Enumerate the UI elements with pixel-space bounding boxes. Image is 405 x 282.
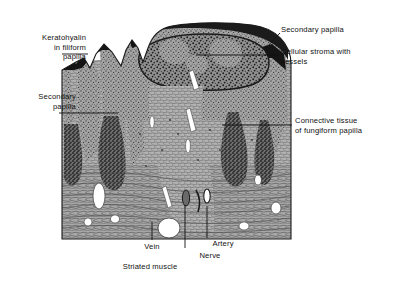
artery-lumen [204,189,210,203]
label-vein: Vein [133,242,171,252]
vessel-lumen-6 [255,175,262,185]
label-striated-muscle: Striated muscle [104,262,196,272]
vein-lumen [158,218,180,238]
nerve-bundle [182,190,189,206]
epithelial-peg-far-left [64,124,82,186]
vessel-lumen-5 [271,202,281,214]
tissue-section [55,19,300,245]
vessel-lumen-2 [84,218,92,226]
vessel-slit-5 [150,116,154,128]
vessel-lumen-4 [239,222,249,230]
label-secondary-papilla-left: Secondary papilla [4,92,76,111]
histology-figure: Keratohyalin in filiform papilla Seconda… [0,0,405,282]
label-cellular-stroma-with-vessels: Cellular stroma with vessels [281,47,403,66]
vessel-slit-4 [186,139,191,153]
label-keratohyalin-in-filiform-papilla: Keratohyalin in filiform papilla [8,33,86,62]
vessel-lumen-1 [93,183,105,209]
label-secondary-papilla-right: Secondary papilla [281,25,403,35]
label-artery: Artery [203,239,243,249]
label-connective-tissue-of-fungiform-papilla: Connective tissue of fungiform papilla [295,116,405,135]
vessel-lumen-3 [111,215,120,223]
keratohyalin-tip-b [106,32,122,48]
label-nerve: Nerve [190,251,230,261]
